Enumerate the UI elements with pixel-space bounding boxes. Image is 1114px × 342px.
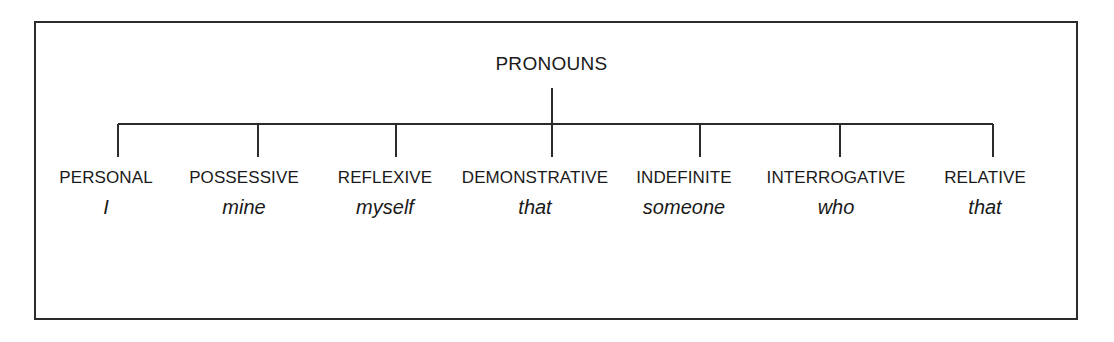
- leaf-node: PERSONALI: [59, 168, 152, 218]
- leaf-node-example: someone: [636, 196, 731, 218]
- root-node-label: PRONOUNS: [0, 53, 1103, 75]
- leaf-node-example: myself: [338, 196, 432, 218]
- leaf-node-label: RELATIVE: [944, 168, 1026, 188]
- leaf-node-label: INDEFINITE: [636, 168, 731, 188]
- leaf-node-label: DEMONSTRATIVE: [462, 168, 608, 188]
- leaf-node-label: REFLEXIVE: [338, 168, 432, 188]
- leaf-node-example: mine: [189, 196, 299, 218]
- leaf-node: INTERROGATIVEwho: [767, 168, 906, 218]
- leaf-node-example: that: [944, 196, 1026, 218]
- leaf-node-label: PERSONAL: [59, 168, 152, 188]
- leaf-node-example: I: [59, 196, 152, 218]
- leaf-node-example: that: [462, 196, 608, 218]
- leaf-node-example: who: [767, 196, 906, 218]
- leaf-node: REFLEXIVEmyself: [338, 168, 432, 218]
- leaf-node-label: INTERROGATIVE: [767, 168, 906, 188]
- leaf-node: POSSESSIVEmine: [189, 168, 299, 218]
- leaf-node: INDEFINITEsomeone: [636, 168, 731, 218]
- leaf-node: RELATIVEthat: [944, 168, 1026, 218]
- leaf-node: DEMONSTRATIVEthat: [462, 168, 608, 218]
- leaf-node-label: POSSESSIVE: [189, 168, 299, 188]
- pronouns-tree-diagram: PRONOUNS PERSONALIPOSSESSIVEmineREFLEXIV…: [0, 0, 1114, 342]
